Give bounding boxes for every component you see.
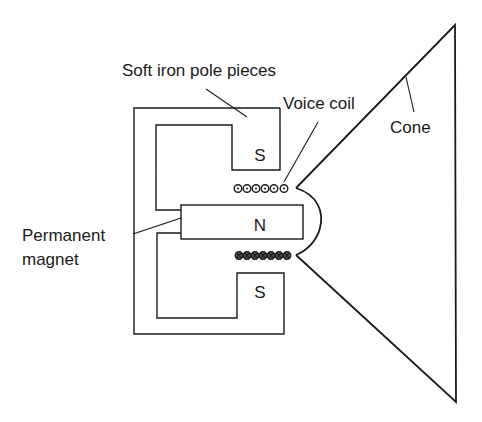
north-pole-label: N <box>254 216 266 235</box>
label-pole-pieces: Soft iron pole pieces <box>122 61 276 80</box>
leader-permanent-magnet <box>133 218 181 234</box>
leader-voice-coil <box>284 122 318 182</box>
leader-cone <box>406 77 414 112</box>
leader-pole-pieces <box>206 89 247 117</box>
label-cone: Cone <box>390 118 431 137</box>
label-voice-coil: Voice coil <box>283 94 355 113</box>
south-pole-label-bottom: S <box>254 283 265 302</box>
permanent-magnet <box>181 205 303 239</box>
loudspeaker-diagram: N S S Soft iron pole pieces Voice coil C… <box>0 0 482 422</box>
voice-coil-bottom <box>235 252 291 260</box>
south-pole-label-top: S <box>254 146 265 165</box>
voice-coil-top <box>234 185 288 193</box>
label-magnet-line2: magnet <box>22 250 79 269</box>
dust-cap-arc <box>296 188 321 255</box>
label-magnet-line1: Permanent <box>22 226 105 245</box>
